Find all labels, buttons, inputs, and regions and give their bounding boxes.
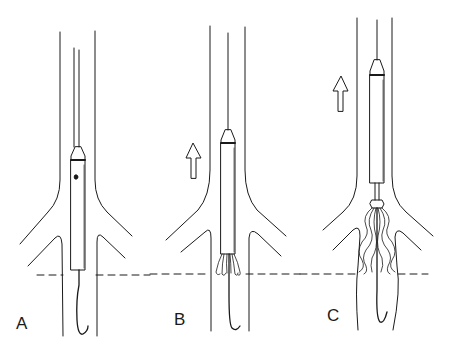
diagram-canvas [0,0,450,352]
panel-label-c: C [327,306,339,326]
panel-c-catheter [359,20,395,322]
panel-a-catheter [71,48,88,334]
panel-c-vessel [323,18,433,330]
panel-label-a: A [16,314,27,334]
panel-b-catheter [216,33,240,330]
panel-a-vessel [20,31,132,336]
panel-b-up-arrow-icon [186,143,201,178]
panel-label-b: B [174,310,185,330]
panel-b-basket-fingers [216,254,240,275]
panel-c-up-arrow-icon [333,76,348,111]
panel-b-vessel [166,26,286,331]
dashed-reference-line [37,274,428,275]
